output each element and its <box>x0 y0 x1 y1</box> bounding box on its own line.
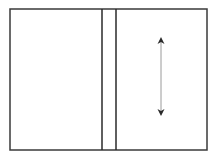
double-arrow-icon <box>158 37 165 116</box>
outer-frame <box>10 9 207 150</box>
diagram-canvas <box>0 0 218 162</box>
